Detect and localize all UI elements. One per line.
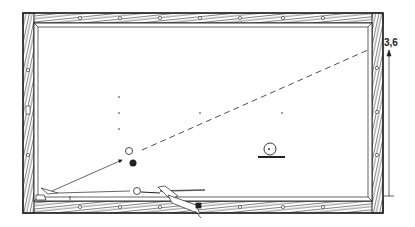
height-measurement <box>384 50 394 196</box>
object-ball-black <box>130 160 137 167</box>
billiard-table-drawing <box>0 0 415 227</box>
object-ball-white <box>126 148 133 155</box>
billiard-diagram: 3,6 <box>0 0 415 227</box>
cue-ball <box>134 188 141 195</box>
table-cushion <box>34 23 372 201</box>
measurement-label: 3,6 <box>384 37 398 48</box>
